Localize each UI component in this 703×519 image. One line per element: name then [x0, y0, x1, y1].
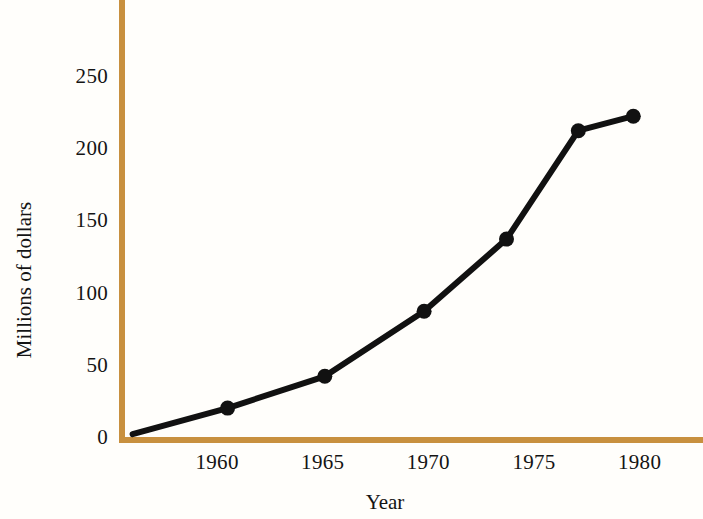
- y-tick-label: 150: [34, 210, 108, 231]
- x-tick-label: 1965: [301, 452, 344, 473]
- data-point: [417, 304, 432, 319]
- y-axis-title: Millions of dollars: [12, 202, 37, 358]
- y-tick-label: 250: [34, 65, 108, 86]
- y-tick-label: 50: [34, 354, 108, 375]
- y-tick-label: 0: [34, 427, 108, 448]
- line-chart-figure: 050100150200250 19601965197019751980 Yea…: [0, 0, 703, 519]
- x-tick-label: 1975: [512, 452, 555, 473]
- y-tick-label: 200: [34, 138, 108, 159]
- x-tick-label: 1960: [195, 452, 238, 473]
- data-point: [626, 109, 641, 124]
- data-point: [220, 401, 235, 416]
- axes-group: [119, 0, 703, 441]
- x-axis-title: Year: [366, 490, 405, 515]
- x-tick-label: 1970: [407, 452, 450, 473]
- data-point: [499, 232, 514, 247]
- data-point: [317, 369, 332, 384]
- x-tick-label: 1980: [618, 452, 661, 473]
- series-markers: [220, 109, 641, 416]
- data-series-group: [133, 109, 641, 434]
- y-tick-label: 100: [34, 282, 108, 303]
- data-point: [571, 123, 586, 138]
- series-line-millions-of-dollars: [133, 116, 634, 434]
